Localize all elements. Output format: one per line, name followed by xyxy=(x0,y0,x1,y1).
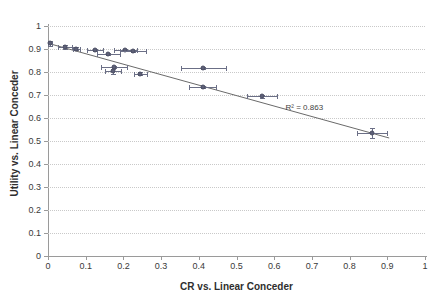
error-bar-cap xyxy=(226,66,227,71)
y-tick-label: 0.4 xyxy=(28,159,41,169)
scatter-chart: 00.10.20.30.40.50.60.70.80.91 00.10.20.3… xyxy=(0,0,438,303)
error-bar-cap xyxy=(189,85,190,90)
x-tick-label: 0.4 xyxy=(193,261,206,271)
data-point-marker xyxy=(260,94,265,99)
error-bar-cap xyxy=(101,65,102,70)
error-bar-cap xyxy=(370,128,375,129)
x-tick-mark xyxy=(350,256,351,260)
data-point-marker xyxy=(370,130,375,135)
error-bar-cap xyxy=(181,66,182,71)
error-bar-cap xyxy=(146,49,147,54)
y-tick-label: 0.3 xyxy=(28,182,41,192)
x-tick-mark xyxy=(161,256,162,260)
data-point-marker xyxy=(74,46,79,51)
y-tick-label: 0.9 xyxy=(28,44,41,54)
error-bar-cap xyxy=(134,72,135,77)
error-bar-cap xyxy=(121,69,122,74)
error-bar-cap xyxy=(87,48,88,53)
error-bar-cap xyxy=(105,69,106,74)
plot-area: R² = 0.863 xyxy=(48,26,425,256)
x-tick-label: 0.2 xyxy=(117,261,130,271)
r-squared-annotation: R² = 0.863 xyxy=(286,103,324,112)
x-axis-title: CR vs. Linear Conceder xyxy=(48,281,425,292)
y-tick-label: 0.8 xyxy=(28,67,41,77)
y-tick-label: 0.2 xyxy=(28,205,41,215)
x-tick-mark xyxy=(86,256,87,260)
error-bar-cap xyxy=(48,46,53,47)
error-bar-cap xyxy=(357,131,358,136)
data-point-marker xyxy=(200,84,205,89)
data-point-marker xyxy=(106,51,111,56)
error-bar-cap xyxy=(120,49,121,54)
x-tick-label: 0.5 xyxy=(230,261,243,271)
error-bar-cap xyxy=(247,94,248,99)
data-point-marker xyxy=(110,69,115,74)
error-bar-cap xyxy=(147,72,148,77)
error-bar-cap xyxy=(370,138,375,139)
x-tick-label: 0.9 xyxy=(381,261,394,271)
error-bar-cap xyxy=(80,47,81,52)
data-point-marker xyxy=(62,44,67,49)
error-bar-cap xyxy=(103,48,104,53)
y-tick-label: 1 xyxy=(36,21,41,31)
x-tick-label: 0.1 xyxy=(79,261,92,271)
error-bar-cap xyxy=(97,52,98,57)
x-tick-mark xyxy=(425,256,426,260)
x-tick-mark xyxy=(48,256,49,260)
x-tick-mark xyxy=(123,256,124,260)
y-tick-label: 0 xyxy=(36,251,41,261)
y-tick-label: 0.6 xyxy=(28,113,41,123)
error-bar-cap xyxy=(387,131,388,136)
y-tick-label: 0.5 xyxy=(28,136,41,146)
x-tick-label: 0.6 xyxy=(268,261,281,271)
x-tick-label: 0 xyxy=(45,261,50,271)
trendline xyxy=(48,26,425,256)
x-tick-mark xyxy=(274,256,275,260)
x-tick-mark xyxy=(237,256,238,260)
y-tick-label: 0.7 xyxy=(28,90,41,100)
data-point-marker xyxy=(201,65,206,70)
error-bar-cap xyxy=(127,65,128,70)
error-bar-cap xyxy=(58,45,59,50)
y-axis-title: Utility vs. Linear Conceder xyxy=(9,24,20,244)
x-tick-mark xyxy=(199,256,200,260)
y-tick-label: 0.1 xyxy=(28,228,41,238)
data-point-marker xyxy=(130,48,135,53)
x-tick-mark xyxy=(312,256,313,260)
data-point-marker xyxy=(138,71,143,76)
data-point-marker xyxy=(47,41,52,46)
x-tick-label: 0.8 xyxy=(343,261,356,271)
x-tick-label: 0.3 xyxy=(155,261,168,271)
x-tick-label: 0.7 xyxy=(306,261,319,271)
x-tick-label: 1 xyxy=(422,261,427,271)
x-tick-mark xyxy=(387,256,388,260)
error-bar-cap xyxy=(216,85,217,90)
error-bar-cap xyxy=(277,94,278,99)
error-bar-cap xyxy=(114,48,115,53)
